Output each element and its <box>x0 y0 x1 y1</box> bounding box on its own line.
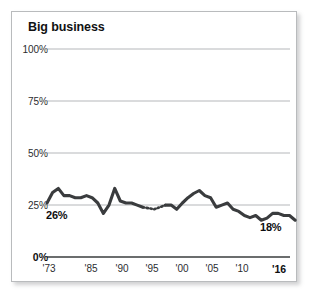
y-tick-0: 0% <box>22 251 48 263</box>
chart-svg <box>12 12 298 283</box>
end-value-label: 18% <box>260 221 281 233</box>
chart-screenshot: Big business 0% <box>0 0 310 305</box>
y-tick-50: 50% <box>18 148 48 159</box>
x-tick-2000: '00 <box>175 263 188 274</box>
start-value-label: 26% <box>46 209 67 221</box>
y-tick-75: 75% <box>18 96 48 107</box>
x-tick-2010: '10 <box>235 263 248 274</box>
x-tick-1973: '73 <box>42 263 55 274</box>
x-tick-1985: '85 <box>84 263 97 274</box>
data-line-gap-dotted <box>143 205 166 209</box>
gridlines <box>47 49 290 205</box>
chart-card: Big business 0% <box>11 11 297 282</box>
x-tick-1995: '95 <box>145 263 158 274</box>
y-tick-25: 25% <box>18 200 48 211</box>
plot-area: 0% 25% 50% 75% 100% '73 '85 '90 '95 '00 … <box>12 12 298 283</box>
x-tick-2005: '05 <box>205 263 218 274</box>
x-tick-2016: '16 <box>272 263 286 275</box>
y-tick-100: 100% <box>13 44 48 55</box>
x-tick-1990: '90 <box>115 263 128 274</box>
